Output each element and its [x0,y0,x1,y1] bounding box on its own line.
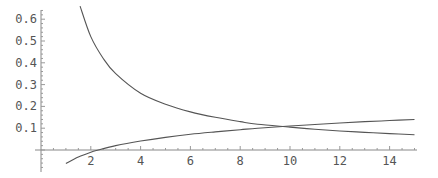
y-tick-label: 0.1 [15,121,37,135]
x-tick-label: 2 [87,154,94,168]
axes [35,10,417,172]
y-tick-label: 0.6 [15,12,37,26]
y-tick-label: 0.2 [15,99,37,113]
x-tick-label: 6 [187,154,194,168]
x-tick-label: 12 [333,154,347,168]
x-tick-label: 4 [137,154,144,168]
y-tick-label: 0.5 [15,34,37,48]
plot-area: 2468101214 0.10.20.30.40.50.6 [0,0,438,178]
x-axis-ticks: 2468101214 [53,146,414,168]
x-tick-label: 14 [382,154,396,168]
series-group [66,6,415,163]
y-tick-label: 0.4 [15,56,37,70]
chart: 2468101214 0.10.20.30.40.50.6 [0,0,438,178]
x-tick-label: 8 [237,154,244,168]
y-tick-label: 0.3 [15,78,37,92]
x-tick-label: 10 [283,154,297,168]
curve-decreasing [80,6,414,135]
